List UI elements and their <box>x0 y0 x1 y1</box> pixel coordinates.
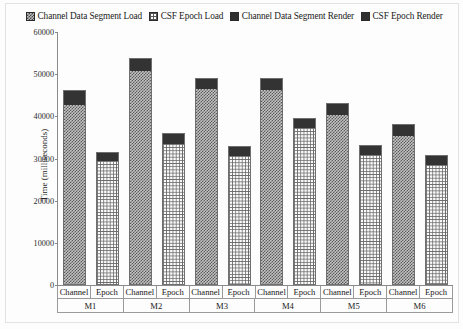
bar-m2-channel <box>129 58 152 285</box>
y-axis-tick-mark <box>55 74 58 75</box>
x-axis-sub-label: Channel <box>123 286 156 299</box>
legend-item-channel-data-segment-load: Channel Data Segment Load <box>26 12 142 21</box>
x-axis-group-label: M4 <box>254 299 320 313</box>
x-axis-group-label: M2 <box>123 299 189 313</box>
bar-segment-render <box>261 79 282 90</box>
y-axis-tick-label: 20000 <box>34 196 54 205</box>
y-axis-tick-label: 0 <box>50 281 54 290</box>
x-axis-group-row: M1M2M3M4M5M6 <box>57 299 452 313</box>
y-axis-tick-label: 30000 <box>34 154 54 163</box>
legend-item-csf-epoch-render: CSF Epoch Render <box>361 12 443 21</box>
bar-segment-load <box>360 155 381 284</box>
x-axis-group-label: M5 <box>320 299 386 313</box>
x-axis-sub-row: ChannelEpochChannelEpochChannelEpochChan… <box>57 286 452 299</box>
bar-segment-render <box>229 147 250 156</box>
x-axis-sub-label: Epoch <box>90 286 123 299</box>
bar-segment-load <box>327 115 348 284</box>
bar-m1-epoch <box>96 152 119 285</box>
legend-label-1: CSF Epoch Load <box>161 12 224 21</box>
bar-segment-load <box>64 105 85 284</box>
bar-m5-channel <box>326 103 349 285</box>
y-axis-tick-label: 60000 <box>34 28 54 37</box>
legend-swatch-solid-dark-2-icon <box>361 12 370 21</box>
x-axis-sub-label: Epoch <box>419 286 452 299</box>
bar-m3-epoch <box>228 146 251 285</box>
y-axis-tick-label: 50000 <box>34 70 54 79</box>
bar-m1-channel <box>63 90 86 285</box>
bar-m5-epoch <box>359 145 382 285</box>
plot-area: 6000050000400003000020000100000 <box>57 32 453 286</box>
x-axis-sub-label: Epoch <box>156 286 189 299</box>
y-axis-tick-mark <box>55 159 58 160</box>
x-axis: ChannelEpochChannelEpochChannelEpochChan… <box>57 286 453 313</box>
legend-label-3: CSF Epoch Render <box>373 12 443 21</box>
bar-segment-render <box>426 156 447 165</box>
legend-item-channel-data-segment-render: Channel Data Segment Render <box>230 12 354 21</box>
bar-segment-render <box>393 125 414 136</box>
bar-m2-epoch <box>162 133 185 285</box>
x-axis-sub-label: Channel <box>386 286 419 299</box>
x-axis-sub-label: Epoch <box>353 286 386 299</box>
y-axis-tick-mark <box>55 116 58 117</box>
x-axis-group-label: M1 <box>57 299 123 313</box>
bar-segment-render <box>327 104 348 115</box>
x-axis-sub-label: Channel <box>57 286 90 299</box>
x-axis-group-label: M6 <box>386 299 452 313</box>
legend-swatch-hatch-icon <box>26 12 35 21</box>
legend-item-csf-epoch-load: CSF Epoch Load <box>149 12 223 21</box>
legend-label-2: Channel Data Segment Render <box>242 12 354 21</box>
bar-segment-load <box>163 144 184 284</box>
x-axis-sub-label: Channel <box>189 286 222 299</box>
x-axis-sub-label: Channel <box>320 286 353 299</box>
bar-m6-channel <box>392 124 415 285</box>
bar-segment-render <box>196 79 217 89</box>
bar-m6-epoch <box>425 155 448 285</box>
y-axis-title: Time (milliseconds) <box>39 128 49 200</box>
x-axis-group-label: M3 <box>189 299 255 313</box>
x-axis-sub-label: Epoch <box>222 286 255 299</box>
bar-segment-load <box>426 165 447 284</box>
y-axis-tick-mark <box>55 32 58 33</box>
legend-swatch-grid-icon <box>149 12 158 21</box>
chart-legend: Channel Data Segment Load CSF Epoch Load… <box>26 12 446 21</box>
bar-segment-load <box>261 90 282 284</box>
bar-segment-render <box>97 153 118 161</box>
y-axis-tick-mark <box>55 243 58 244</box>
bar-m3-channel <box>195 78 218 285</box>
bar-segment-load <box>97 161 118 284</box>
bar-m4-channel <box>260 78 283 285</box>
bar-segment-load <box>294 128 315 284</box>
bar-segment-load <box>196 89 217 284</box>
legend-label-0: Channel Data Segment Load <box>38 12 143 21</box>
y-axis-tick-label: 40000 <box>34 112 54 121</box>
bar-segment-render <box>130 59 151 71</box>
bar-segment-load <box>229 156 250 284</box>
bar-m4-epoch <box>293 118 316 285</box>
chart-figure: Channel Data Segment Load CSF Epoch Load… <box>0 0 463 329</box>
x-axis-sub-label: Epoch <box>287 286 320 299</box>
bar-segment-load <box>130 71 151 284</box>
y-axis-tick-mark <box>55 201 58 202</box>
x-axis-sub-label: Channel <box>255 286 288 299</box>
bar-segment-render <box>163 134 184 144</box>
bar-segment-render <box>64 91 85 105</box>
bar-segment-render <box>360 146 381 155</box>
bar-segment-render <box>294 119 315 128</box>
legend-swatch-solid-dark-icon <box>230 12 239 21</box>
y-axis-tick-label: 10000 <box>34 238 54 247</box>
bar-segment-load <box>393 136 414 284</box>
